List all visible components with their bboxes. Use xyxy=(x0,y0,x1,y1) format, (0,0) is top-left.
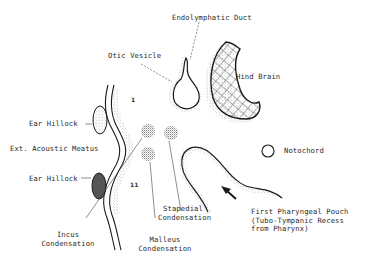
label-notochord: Notochord xyxy=(284,147,324,156)
notochord-shape xyxy=(262,145,274,157)
pouch-arrow xyxy=(221,186,236,199)
ectoderm-surface xyxy=(104,85,134,250)
otic-vesicle-shape xyxy=(169,54,201,112)
stapedial-condensation-shape xyxy=(164,126,178,140)
label-ear-hillock-lower: Ear Hillock xyxy=(29,175,78,184)
ear-hillock-upper-shape xyxy=(93,106,107,134)
arch-2-numeral: 11 xyxy=(130,181,138,188)
pouch-line3: from Pharynx) xyxy=(251,225,348,234)
label-incus-condensation: Incus Condensation xyxy=(38,231,98,248)
incus-condensation-shape xyxy=(141,124,155,138)
label-ear-hillock-upper: Ear Hillock xyxy=(29,120,78,129)
label-hind-brain: Hind Brain xyxy=(236,73,280,82)
label-malleus-condensation: Malleus Condensation xyxy=(135,236,195,253)
label-otic-vesicle: Otic Vesicle xyxy=(108,52,161,61)
malleus-condensation-shape xyxy=(141,147,155,161)
label-ext-acoustic-meatus: Ext. Acoustic Meatus xyxy=(10,145,99,154)
label-stapedial-condensation: Stapedial Condensation xyxy=(158,205,208,222)
ear-development-diagram: Endolymphatic Duct Otic Vesicle Hind Bra… xyxy=(0,0,366,263)
ear-hillock-lower-shape xyxy=(92,173,106,199)
label-endolymphatic-duct: Endolymphatic Duct xyxy=(172,14,252,23)
arch-1-numeral: 1 xyxy=(131,96,135,103)
stapedial-line2: Condensation xyxy=(158,214,208,223)
malleus-line2: Condensation xyxy=(135,245,195,254)
label-first-pharyngeal-pouch: First Pharyngeal Pouch (Tubo-Tympanic Re… xyxy=(251,208,348,234)
hind-brain-shape xyxy=(205,42,260,123)
incus-line2: Condensation xyxy=(38,240,98,249)
